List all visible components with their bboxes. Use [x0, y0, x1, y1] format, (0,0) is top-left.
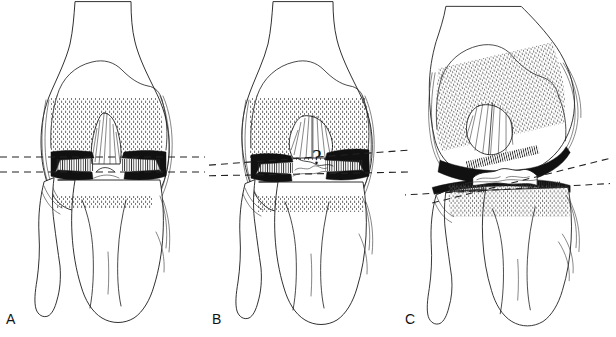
figure-root: A: [0, 0, 616, 337]
panel-a: A: [0, 0, 205, 337]
panel-b: ? B: [205, 0, 410, 337]
knee-diagram-a: [0, 0, 205, 337]
tibia-fibula-outline-a: [35, 178, 170, 323]
panel-label-a: A: [6, 312, 16, 326]
knee-diagram-b: ?: [205, 0, 410, 337]
tibia-fibula-outline-b: [236, 180, 373, 325]
panel-label-b: B: [212, 312, 222, 326]
tibia-fibula-outline-c: [427, 186, 579, 326]
panel-c: C: [405, 0, 610, 337]
knee-diagram-c: [405, 0, 610, 337]
panel-label-c: C: [405, 312, 416, 326]
